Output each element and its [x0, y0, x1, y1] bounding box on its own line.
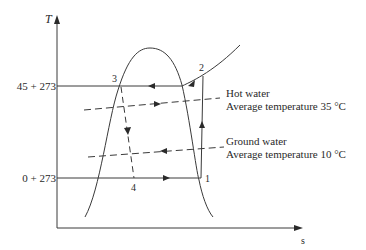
evaporation-arrow-icon [163, 175, 170, 181]
s-axis-arrow-icon [294, 225, 303, 231]
upper-temperature-label: 45 + 273 [17, 80, 57, 92]
s-axis-label: s [301, 235, 305, 246]
throttling-arrow-icon [124, 127, 131, 135]
hot-water-arrow-icon [154, 101, 161, 107]
superheat-curve [182, 45, 240, 86]
hot-water-title: Hot water [226, 87, 270, 99]
t-axis-arrow-icon [54, 15, 60, 24]
t-axis-label: T [45, 12, 53, 26]
saturation-dome [85, 48, 213, 217]
compression-arrow-icon [199, 121, 205, 128]
ground-water-arrow-icon [160, 148, 167, 154]
ground-water-temperature: Average temperature 10 °C [226, 148, 346, 160]
point-4-label: 4 [131, 182, 136, 193]
ground-water-title: Ground water [226, 135, 287, 147]
hot-water-temperature: Average temperature 35 °C [226, 100, 346, 112]
point-3-label: 3 [112, 73, 117, 84]
t-s-diagram: T s 45 + 273 0 + 273 3 2 1 4 Hot water A… [0, 0, 366, 250]
point-1-label: 1 [205, 173, 210, 184]
ground-water-line [88, 147, 224, 157]
axes [54, 15, 303, 231]
point-2-label: 2 [199, 62, 204, 73]
diagram-canvas: T s 45 + 273 0 + 273 3 2 1 4 Hot water A… [0, 0, 366, 250]
hot-water-line [84, 98, 220, 110]
condensation-arrow-icon [148, 83, 155, 89]
lower-temperature-label: 0 + 273 [22, 172, 56, 184]
